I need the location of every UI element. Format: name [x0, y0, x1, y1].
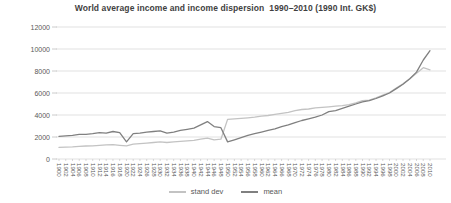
x-axis-tick-label: 1960: [259, 163, 266, 177]
legend-item-mean: mean: [241, 187, 282, 196]
x-axis-tick-label: 1962: [265, 163, 272, 177]
chart-panel: World average income and income dispersi…: [0, 0, 451, 203]
x-axis-tick-label: 1992: [366, 163, 373, 177]
x-axis-tick-label: 1924: [137, 163, 144, 177]
x-axis-tick-label: 1908: [83, 163, 90, 177]
x-axis-tick-label: 1926: [144, 163, 151, 177]
chart-svg: 0200040006000800010000120001900190219041…: [0, 0, 451, 203]
x-axis-tick-label: 1942: [198, 163, 205, 177]
series-line-mean: [59, 51, 430, 142]
x-axis-tick-label: 1956: [245, 163, 252, 177]
x-axis-tick-label: 1972: [299, 163, 306, 177]
x-axis-tick-label: 1998: [387, 163, 394, 177]
x-axis-tick-label: 1938: [184, 163, 191, 177]
legend-label-mean: mean: [263, 187, 282, 196]
x-axis-tick-label: 1948: [218, 163, 225, 177]
x-axis-tick-label: 1914: [103, 163, 110, 177]
x-axis-tick-label: 1966: [279, 163, 286, 177]
x-axis-tick-label: 1990: [360, 163, 367, 177]
y-axis-tick-label: 8000: [34, 68, 50, 75]
x-axis-tick-label: 1944: [205, 163, 212, 177]
x-axis-tick-label: 2008: [420, 163, 427, 177]
x-axis-tick-label: 1982: [333, 163, 340, 177]
x-axis-tick-label: 1936: [178, 163, 185, 177]
x-axis-tick-label: 1940: [191, 163, 198, 177]
x-axis-tick-label: 1946: [211, 163, 218, 177]
x-axis-tick-label: 1958: [252, 163, 259, 177]
x-axis-tick-label: 1910: [90, 163, 97, 177]
legend-swatch-stand-dev: [169, 191, 186, 193]
x-axis-tick-label: 1988: [353, 163, 360, 177]
x-axis-tick-label: 1920: [124, 163, 131, 177]
x-axis-tick-label: 1928: [151, 163, 158, 177]
x-axis-tick-label: 1950: [225, 163, 232, 177]
x-axis-tick-label: 1994: [373, 163, 380, 177]
x-axis-tick-label: 1902: [63, 163, 70, 177]
y-axis-tick-label: 4000: [34, 112, 50, 119]
x-axis-tick-label: 1970: [292, 163, 299, 177]
x-axis-tick-label: 2010: [427, 163, 434, 177]
x-axis-tick-label: 2000: [393, 163, 400, 177]
x-axis-tick-label: 1912: [97, 163, 104, 177]
x-axis-tick-label: 1976: [313, 163, 320, 177]
x-axis-tick-label: 1964: [272, 163, 279, 177]
x-axis-tick-label: 1930: [157, 163, 164, 177]
x-axis-tick-label: 1974: [306, 163, 313, 177]
x-axis-tick-label: 1996: [380, 163, 387, 177]
y-axis-tick-label: 6000: [34, 90, 50, 97]
x-axis-tick-label: 1954: [238, 163, 245, 177]
x-axis-tick-label: 2002: [400, 163, 407, 177]
x-axis-tick-label: 1984: [340, 163, 347, 177]
x-axis-tick-label: 1978: [319, 163, 326, 177]
x-axis-tick-label: 2006: [414, 163, 421, 177]
y-axis-tick-label: 12000: [31, 24, 51, 31]
legend-swatch-mean: [241, 191, 258, 193]
y-axis-tick-label: 2000: [34, 134, 50, 141]
x-axis-tick-label: 1918: [117, 163, 124, 177]
legend-label-stand-dev: stand dev: [191, 187, 224, 196]
x-axis-tick-label: 1906: [76, 163, 83, 177]
x-axis-tick-label: 1980: [326, 163, 333, 177]
x-axis-tick-label: 1934: [171, 163, 178, 177]
x-axis-tick-label: 1916: [110, 163, 117, 177]
x-axis-tick-label: 1952: [232, 163, 239, 177]
y-axis-tick-label: 10000: [31, 46, 51, 53]
x-axis-tick-label: 1968: [286, 163, 293, 177]
x-axis-tick-label: 1922: [130, 163, 137, 177]
x-axis-tick-label: 2004: [407, 163, 414, 177]
chart-legend: stand devmean: [0, 187, 451, 196]
legend-item-stand-dev: stand dev: [169, 187, 224, 196]
x-axis-tick-label: 1904: [70, 163, 77, 177]
x-axis-tick-label: 1932: [164, 163, 171, 177]
x-axis-tick-label: 1900: [56, 163, 63, 177]
series-line-stand-dev: [59, 68, 430, 148]
x-axis-tick-label: 1986: [346, 163, 353, 177]
y-axis-tick-label: 0: [46, 156, 50, 163]
